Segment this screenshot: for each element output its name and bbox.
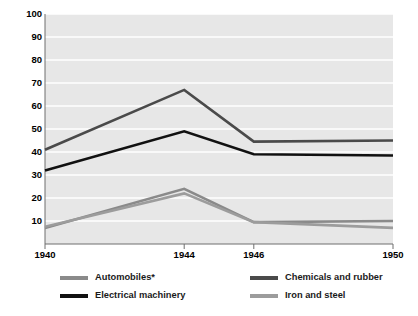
x-axis-tick-label: 1940 [25,250,65,260]
legend-item[interactable]: Chemicals and rubber [250,271,383,285]
legend-label: Chemicals and rubber [285,273,383,282]
line-chart: Women as a percentage of all production … [0,0,418,316]
x-axis-tick-label: 1944 [164,250,204,260]
legend-swatch-icon [250,276,278,280]
legend-item[interactable]: Iron and steel [250,289,345,303]
chart-legend: Automobiles*Chemicals and rubberElectric… [60,271,400,311]
x-axis-tick-label: 1950 [373,250,413,260]
x-axis-tick-label: 1946 [234,250,274,260]
legend-label: Iron and steel [285,291,345,300]
legend-label: Electrical machinery [95,291,185,300]
legend-label: Automobiles* [95,273,155,282]
legend-item[interactable]: Automobiles* [60,271,155,285]
legend-item[interactable]: Electrical machinery [60,289,185,303]
legend-swatch-icon [60,276,88,280]
legend-swatch-icon [250,294,278,298]
plot-area [0,0,418,316]
legend-swatch-icon [60,294,88,298]
